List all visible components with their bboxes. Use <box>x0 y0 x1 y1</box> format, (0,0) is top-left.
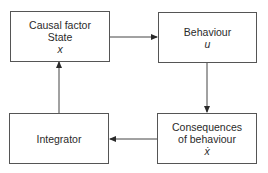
node-variable: ẋ <box>204 145 209 157</box>
node-label-line1: Integrator <box>37 133 82 145</box>
node-consequences: Consequences of behaviour ẋ <box>157 113 257 164</box>
node-label-line2: State <box>48 31 73 43</box>
node-causal-factor: Causal factor State x <box>10 11 110 62</box>
node-variable: x <box>57 43 62 55</box>
node-label-line1: Behaviour <box>184 26 231 38</box>
node-behaviour: Behaviour u <box>158 12 257 63</box>
node-label-line1: Consequences <box>172 121 242 133</box>
node-integrator: Integrator <box>9 113 109 164</box>
node-label-line1: Causal factor <box>29 19 91 31</box>
node-label-line2: of behaviour <box>178 133 236 145</box>
node-variable: u <box>205 38 211 50</box>
